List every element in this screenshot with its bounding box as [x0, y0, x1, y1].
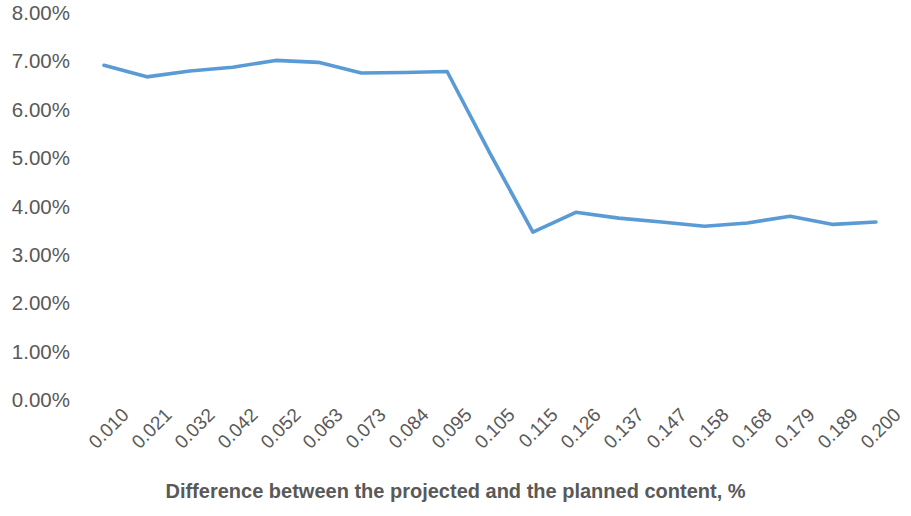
y-tick-label: 3.00%: [12, 242, 70, 268]
y-tick-label: 6.00%: [12, 97, 70, 123]
y-tick-label: 4.00%: [12, 194, 70, 220]
x-axis-title: Difference between the projected and the…: [0, 480, 911, 503]
y-tick-label: 7.00%: [12, 48, 70, 74]
y-tick-label: 5.00%: [12, 145, 70, 171]
y-tick-label: 2.00%: [12, 290, 70, 316]
y-tick-label: 1.00%: [12, 339, 70, 365]
plot-area: [82, 0, 907, 414]
x-axis: 0.0100.0210.0320.0420.0520.0630.0730.084…: [0, 404, 911, 476]
y-tick-label: 8.00%: [12, 0, 70, 26]
y-axis: 8.00%7.00%6.00%5.00%4.00%3.00%2.00%1.00%…: [0, 0, 78, 414]
series-line: [104, 60, 876, 232]
series-line-svg: [82, 0, 907, 414]
line-chart: 8.00%7.00%6.00%5.00%4.00%3.00%2.00%1.00%…: [0, 0, 911, 516]
